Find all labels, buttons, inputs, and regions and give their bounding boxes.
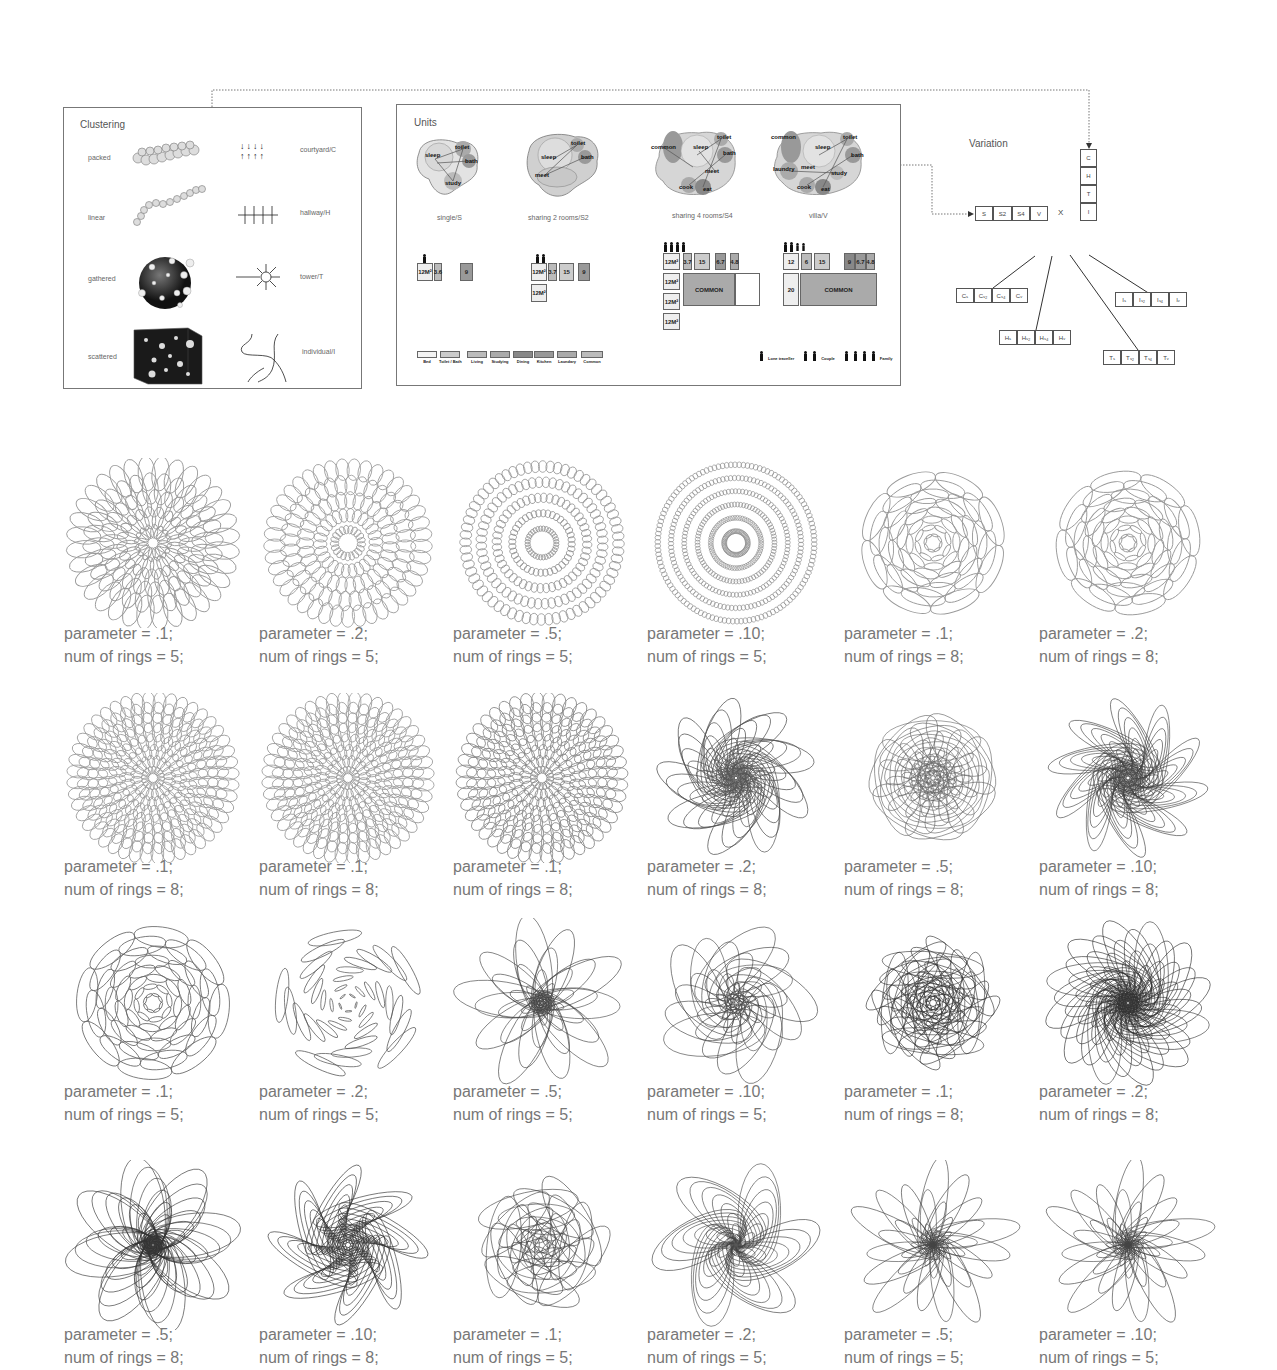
pattern-figure — [452, 693, 632, 863]
variation-cell-s2: S2 — [993, 206, 1012, 221]
svg-text:sleep: sleep — [541, 154, 557, 160]
pattern-label-tower: tower/T — [300, 273, 323, 280]
svg-text:cook: cook — [797, 184, 812, 190]
caption-parameter: parameter = .2; — [1039, 1080, 1159, 1103]
variation-cell-s4: S4 — [1012, 206, 1030, 221]
caption-parameter: parameter = .2; — [259, 1080, 379, 1103]
caption-parameter: parameter = .10; — [259, 1323, 379, 1346]
pattern-figure — [843, 918, 1023, 1088]
caption-rings: num of rings = 5; — [259, 1103, 379, 1126]
bubble-diagram-villa: commonsleep toiletbath laundrymeet study… — [769, 127, 869, 199]
bubble-diagram-sharing4: commonsleep toiletbath meetcook eat — [649, 127, 741, 199]
units-title: Units — [414, 117, 437, 128]
bubble-diagram-sharing2: sleeptoilet bathmeet — [525, 131, 603, 201]
clustering-panel: Clustering packed linear gathered scatte… — [63, 107, 362, 389]
result-cell: Cₛ — [956, 288, 974, 303]
pattern-figure — [1038, 1160, 1218, 1330]
pattern-label-individual: individual/I — [302, 348, 335, 355]
room-v-bath: 6 — [801, 253, 812, 270]
figure-caption: parameter = .10;num of rings = 8; — [1039, 855, 1159, 901]
caption-rings: num of rings = 8; — [1039, 1103, 1159, 1126]
svg-text:study: study — [445, 180, 462, 186]
caption-rings: num of rings = 8; — [1039, 645, 1159, 668]
variation-result-h: Hₛ Hₛ₂ Hₛ₄ Hᵥ — [999, 330, 1071, 345]
pattern-figure — [1038, 458, 1218, 628]
figure-caption: parameter = .2;num of rings = 8; — [1039, 622, 1159, 668]
svg-text:toilet: toilet — [717, 134, 731, 140]
clustering-title: Clustering — [80, 119, 125, 130]
pattern-figure — [452, 458, 632, 628]
result-cell: Iₛ₄ — [1151, 292, 1169, 307]
caption-parameter: parameter = .5; — [453, 622, 573, 645]
room-s4-bed4: 12M² — [663, 313, 680, 330]
room-v-master: 20 — [783, 273, 799, 306]
caption-parameter: parameter = .1; — [64, 855, 184, 878]
caption-rings: num of rings = 5; — [647, 645, 767, 668]
pattern-figure — [1038, 918, 1218, 1088]
result-cell: Tₛ₄ — [1139, 350, 1157, 365]
svg-text:sleep: sleep — [815, 144, 831, 150]
svg-text:study: study — [831, 170, 848, 176]
room-s4-laundry: 4.8 — [730, 253, 739, 270]
room-single-kitchen: 9 — [460, 263, 473, 281]
caption-rings: num of rings = 8; — [844, 1103, 964, 1126]
cluster-label-linear: linear — [88, 214, 105, 221]
pattern-figure — [646, 1160, 826, 1330]
variation-unit-row: S S2 S4 V — [975, 206, 1048, 221]
svg-text:sleep: sleep — [425, 152, 441, 158]
unit-label-villa: villa/V — [809, 212, 828, 219]
result-cell: Hₛ — [999, 330, 1017, 345]
figure-caption: parameter = .10;num of rings = 5; — [647, 1080, 767, 1126]
legend-laundry: Laundary — [557, 351, 577, 364]
result-cell: Cᵥ — [1010, 288, 1028, 303]
pattern-figure — [258, 918, 438, 1088]
pattern-figure — [452, 1160, 632, 1330]
legend-bed: Bed — [417, 351, 437, 364]
unit-label-sharing4: sharing 4 rooms/S4 — [672, 212, 733, 219]
unit-label-single: single/S — [437, 214, 462, 221]
result-cell: Iₛ — [1115, 292, 1133, 307]
family-icon — [844, 351, 849, 361]
caption-parameter: parameter = .10; — [1039, 855, 1159, 878]
room-s2-bath: 3.7 — [548, 263, 557, 281]
caption-rings: num of rings = 5; — [64, 645, 184, 668]
couple-icon — [803, 351, 808, 361]
room-s4-bed3: 12M² — [663, 293, 680, 310]
cluster-label-scattered: scattered — [88, 353, 117, 360]
result-cell: Hₛ₂ — [1017, 330, 1035, 345]
svg-text:eat: eat — [821, 186, 830, 192]
svg-text:common: common — [651, 144, 676, 150]
caption-parameter: parameter = .2; — [647, 1323, 767, 1346]
room-single-bed: 12M² — [417, 263, 433, 281]
room-s4-kitchen: 6.7 — [715, 253, 726, 270]
legend-dining: Dining — [513, 351, 533, 364]
gathered-cluster-image — [132, 253, 198, 313]
svg-text:cook: cook — [679, 184, 694, 190]
result-cell: Tₛ — [1103, 350, 1121, 365]
pattern-figure — [843, 458, 1023, 628]
pattern-figure — [63, 458, 243, 628]
figure-caption: parameter = .1;num of rings = 8; — [844, 622, 964, 668]
variation-title: Variation — [969, 138, 1008, 149]
variation-cell-i: I — [1080, 203, 1097, 221]
caption-parameter: parameter = .1; — [453, 1323, 573, 1346]
caption-parameter: parameter = .5; — [844, 1323, 964, 1346]
variation-result-i: Iₛ Iₛ₂ Iₛ₄ Iᵥ — [1115, 292, 1187, 307]
pattern-figure — [63, 918, 243, 1088]
pattern-figure — [63, 1160, 243, 1330]
lone-traveller-icon — [759, 351, 764, 361]
svg-text:meet: meet — [705, 168, 719, 174]
legend-studying: Studying — [490, 351, 510, 364]
caption-rings: num of rings = 8; — [647, 878, 767, 901]
svg-text:bath: bath — [851, 152, 864, 158]
figure-caption: parameter = .5;num of rings = 5; — [844, 1323, 964, 1369]
caption-parameter: parameter = .5; — [453, 1080, 573, 1103]
variation-cell-t: T — [1080, 185, 1097, 203]
result-cell: Tₛ₂ — [1121, 350, 1139, 365]
pattern-figure — [258, 1160, 438, 1330]
variation-cell-s: S — [975, 206, 993, 221]
result-cell: Hₛ₄ — [1035, 330, 1053, 345]
figure-caption: parameter = .1;num of rings = 8; — [844, 1080, 964, 1126]
result-cell: Iᵥ — [1169, 292, 1187, 307]
caption-parameter: parameter = .5; — [64, 1323, 184, 1346]
